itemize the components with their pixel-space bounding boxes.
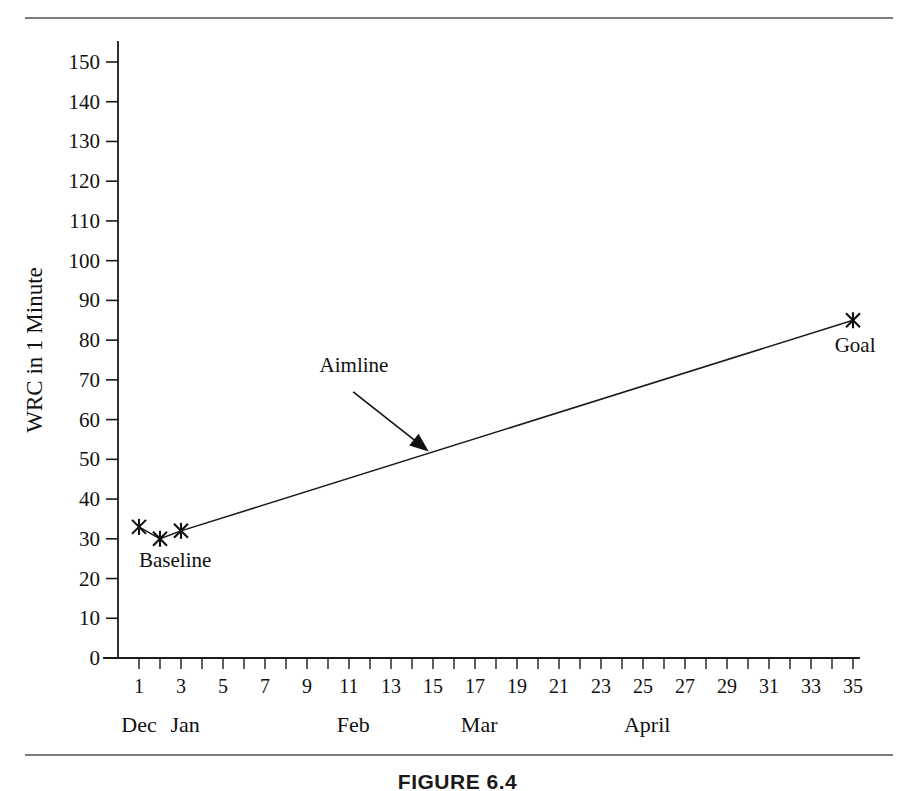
x-axis-tick-label: 15 xyxy=(423,675,443,697)
y-axis-tick-label: 50 xyxy=(79,447,100,471)
annotation-arrow-aimline xyxy=(353,392,418,444)
x-axis-tick-label: 13 xyxy=(381,675,401,697)
y-axis-tick-label: 130 xyxy=(69,129,101,153)
y-axis-tick-label: 140 xyxy=(69,90,101,114)
y-axis-tick-label: 0 xyxy=(90,646,101,670)
y-axis-tick-label: 110 xyxy=(69,209,100,233)
y-axis-tick-label: 120 xyxy=(69,169,101,193)
x-axis-tick-label: 17 xyxy=(465,675,485,697)
x-axis-tick-label: 23 xyxy=(591,675,611,697)
y-axis-tick-label: 80 xyxy=(79,328,100,352)
annotation-arrowhead-aimline xyxy=(409,434,429,452)
y-axis-title: WRC in 1 Minute xyxy=(22,267,47,432)
annotation-label-baseline: Baseline xyxy=(139,548,211,572)
y-axis-tick-label: 70 xyxy=(79,368,100,392)
x-axis-tick-label: 25 xyxy=(633,675,653,697)
x-axis-month-label: Dec xyxy=(121,712,157,737)
annotation-label-aimline: Aimline xyxy=(320,353,389,377)
y-axis-tick-label: 90 xyxy=(79,288,100,312)
x-axis-tick-label: 9 xyxy=(302,675,312,697)
x-axis-month-label: Mar xyxy=(461,712,498,737)
x-axis-tick-label: 27 xyxy=(675,675,695,697)
y-axis-tick-label: 60 xyxy=(79,408,100,432)
x-axis-tick-label: 33 xyxy=(801,675,821,697)
y-axis-tick-label: 40 xyxy=(79,487,100,511)
figure-caption: FIGURE 6.4 xyxy=(0,770,915,791)
x-axis-tick-label: 3 xyxy=(176,675,186,697)
aimline-path xyxy=(181,320,853,531)
y-axis-tick-label: 100 xyxy=(69,249,101,273)
figure-page: 0102030405060708090100110120130140150135… xyxy=(0,0,915,791)
x-axis-month-label: Jan xyxy=(171,712,200,737)
x-axis-tick-label: 19 xyxy=(507,675,527,697)
x-axis-tick-label: 29 xyxy=(717,675,737,697)
x-axis-tick-label: 7 xyxy=(260,675,270,697)
y-axis-tick-label: 10 xyxy=(79,606,100,630)
x-axis-month-label: Feb xyxy=(337,712,370,737)
x-axis-month-label: April xyxy=(624,712,670,737)
x-axis-tick-label: 5 xyxy=(218,675,228,697)
x-axis-tick-label: 21 xyxy=(549,675,569,697)
x-axis-tick-label: 11 xyxy=(339,675,358,697)
x-axis-tick-label: 35 xyxy=(843,675,863,697)
annotation-label-goal: Goal xyxy=(835,333,876,357)
y-axis-tick-label: 20 xyxy=(79,567,100,591)
x-axis-tick-label: 1 xyxy=(134,675,144,697)
y-axis-tick-label: 30 xyxy=(79,527,100,551)
x-axis-tick-label: 31 xyxy=(759,675,779,697)
line-chart: 0102030405060708090100110120130140150135… xyxy=(0,0,915,791)
y-axis-tick-label: 150 xyxy=(69,50,101,74)
